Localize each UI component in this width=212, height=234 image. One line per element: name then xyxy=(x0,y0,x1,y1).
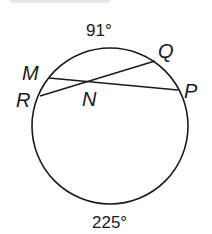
circle-diagram: 91° 225° M R Q P N xyxy=(0,0,212,234)
point-label-m: M xyxy=(22,62,39,84)
point-label-r: R xyxy=(16,89,30,111)
arc-label-top: 91° xyxy=(86,21,112,40)
point-label-q: Q xyxy=(158,40,174,62)
arc-label-bottom: 225° xyxy=(92,213,127,232)
circle xyxy=(32,48,188,204)
point-label-n: N xyxy=(82,88,97,110)
point-label-p: P xyxy=(184,80,198,102)
